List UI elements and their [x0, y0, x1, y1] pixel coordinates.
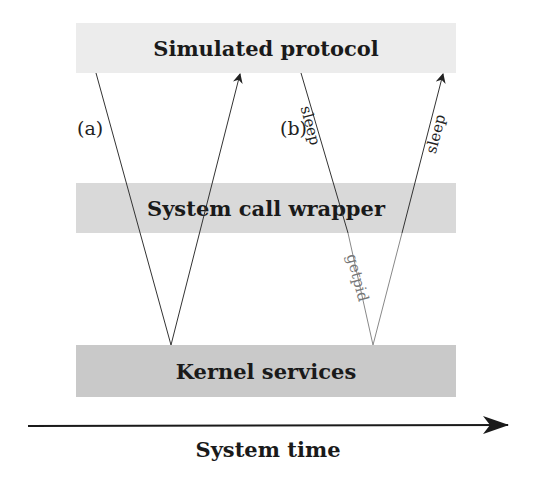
path-a-up-arrow — [171, 74, 240, 345]
path-a-down-line — [96, 73, 171, 345]
path-b-getpid-up — [373, 233, 402, 345]
path-a-tag: (a) — [77, 117, 103, 139]
system-time-arrow — [28, 425, 508, 426]
path-b-down-line — [301, 73, 348, 233]
flow-diagram — [0, 0, 536, 484]
system-time-label: System time — [0, 437, 536, 462]
